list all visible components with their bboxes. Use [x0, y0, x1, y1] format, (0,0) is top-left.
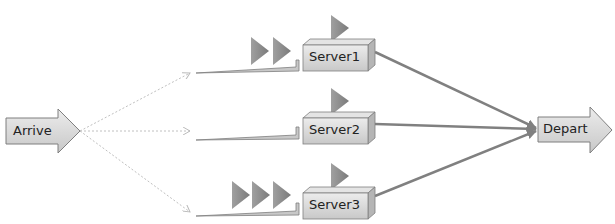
server3-to-depart: [375, 131, 536, 196]
output-lines: [375, 52, 536, 196]
entity-in-service-icon: [331, 163, 349, 190]
entity-icon: [251, 37, 269, 65]
server1-label: Server1: [309, 49, 360, 64]
server2-label: Server2: [309, 122, 360, 137]
entity-icon: [232, 181, 250, 209]
server1-to-depart: [375, 52, 536, 128]
queue-tray: [196, 203, 299, 216]
server2-to-depart: [375, 124, 536, 129]
entity-in-service-icon: [331, 15, 349, 42]
depart-label: Depart: [543, 121, 588, 136]
route-to-server3: [80, 131, 190, 212]
entity-in-service-icon: [331, 88, 349, 115]
arrive-label: Arrive: [13, 123, 52, 138]
routing-lines: [80, 73, 190, 212]
queue-diagram: [0, 0, 615, 224]
server3-label: Server3: [309, 197, 360, 212]
queue-tray: [196, 127, 299, 140]
entity-icon: [252, 181, 270, 209]
queue-tray: [196, 60, 299, 73]
route-to-server1: [80, 73, 190, 131]
server1-group: [196, 15, 375, 73]
entity-icon: [273, 37, 291, 65]
entity-icon: [273, 181, 291, 209]
